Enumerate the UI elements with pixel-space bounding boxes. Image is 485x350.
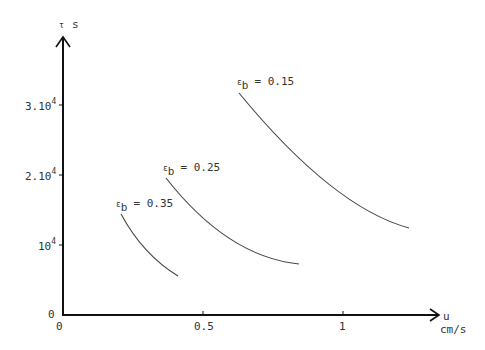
series-label-0.25: εb= 0.25 <box>163 161 220 178</box>
series-curves <box>121 93 409 276</box>
x-tick-label-0: 0 <box>56 320 63 333</box>
series-label-0.35: εb= 0.35 <box>116 197 173 214</box>
x-axis-unit: cm/s <box>440 323 467 336</box>
y-tick-label-10000: 104 <box>38 237 56 253</box>
x-tick-label-0.5: 0.5 <box>194 320 214 333</box>
y-axis-title: τ <box>59 21 64 30</box>
y-tick-label-0: 0 <box>48 308 55 321</box>
chart: 0 104 2.104 3.104 0 0.5 1 τ s u cm/s εb=… <box>0 0 485 350</box>
curve-eps-0.15 <box>239 93 409 228</box>
y-tick-label-20000: 2.104 <box>25 167 57 183</box>
curve-eps-0.25 <box>166 178 299 264</box>
series-label-0.15: εb= 0.15 <box>237 75 294 92</box>
x-axis-title: u <box>443 310 450 323</box>
curve-eps-0.35 <box>121 214 178 276</box>
y-tick-label-30000: 3.104 <box>25 97 57 113</box>
y-axis-unit: s <box>72 18 79 31</box>
x-tick-label-1: 1 <box>339 320 346 333</box>
